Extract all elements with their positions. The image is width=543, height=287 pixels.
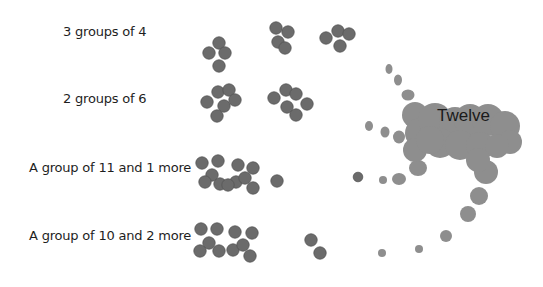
dot-r2-g0-0 <box>196 157 208 169</box>
dot-r1-g1-4 <box>301 98 313 110</box>
dot-r0-g2-2 <box>343 28 355 40</box>
converging-dot-t8 <box>392 173 406 185</box>
dot-r3-g1-0 <box>305 234 317 246</box>
converging-dot-t4 <box>365 121 373 131</box>
converging-dot-t9 <box>409 160 427 176</box>
dot-r1-g0-1 <box>212 86 224 98</box>
dot-r2-g0-6 <box>247 162 259 174</box>
converging-dot-t10 <box>470 187 488 205</box>
dot-r0-g0-3 <box>213 60 225 72</box>
dot-r2-g0-8 <box>239 172 251 184</box>
dot-r3-g0-6 <box>246 227 258 239</box>
dot-r0-g2-1 <box>332 25 344 37</box>
dot-r1-g1-5 <box>290 109 302 121</box>
dot-r3-g0-0 <box>195 223 207 235</box>
dot-r0-g2-0 <box>320 32 332 44</box>
dot-r2-g0-9 <box>247 182 259 194</box>
converging-dot-t12 <box>440 230 452 242</box>
dot-r3-g0-9 <box>244 250 256 262</box>
converging-dot-t1 <box>386 64 393 74</box>
dot-r3-g0-8 <box>237 239 249 251</box>
blob-part-15 <box>416 126 444 154</box>
dot-r2-g1-0 <box>271 175 283 187</box>
dot-r1-g0-0 <box>201 96 213 108</box>
dot-r0-g1-1 <box>282 26 294 38</box>
dot-r1-g1-2 <box>290 88 302 100</box>
dot-r3-g0-3 <box>194 245 206 257</box>
dot-diagram <box>0 0 543 287</box>
converging-dot-t7 <box>379 176 387 184</box>
blob-part-13 <box>466 148 490 172</box>
dot-r1-g0-4 <box>229 94 241 106</box>
dot-r2-g0-10 <box>222 179 234 191</box>
converging-dot-t14 <box>378 249 386 257</box>
dot-r2-g0-3 <box>199 176 211 188</box>
converging-dot-t11 <box>460 206 476 222</box>
converging-dot-t5 <box>381 127 390 138</box>
twelve-label: Twelve <box>437 106 490 126</box>
dot-r1-g0-5 <box>211 110 223 122</box>
dot-r3-g0-1 <box>211 223 223 235</box>
converging-dot-t13 <box>415 245 423 253</box>
dot-r0-g0-1 <box>203 47 215 59</box>
converging-dot-t3 <box>402 90 415 101</box>
dot-r1-g1-0 <box>268 92 280 104</box>
dot-r0-g1-3 <box>279 42 291 54</box>
converging-dot-t6 <box>393 131 405 144</box>
dot-r0-g0-2 <box>219 47 231 59</box>
dot-r2-g0-1 <box>212 155 224 167</box>
dot-r3-g0-5 <box>229 226 241 238</box>
dot-r2-g0-5 <box>232 159 244 171</box>
dark-dot <box>353 172 363 182</box>
converging-dot-t2 <box>394 75 402 86</box>
dot-r0-g1-0 <box>270 22 282 34</box>
dot-r0-g2-3 <box>334 40 346 52</box>
dot-r3-g0-4 <box>213 245 225 257</box>
dot-r3-g1-1 <box>314 247 326 259</box>
